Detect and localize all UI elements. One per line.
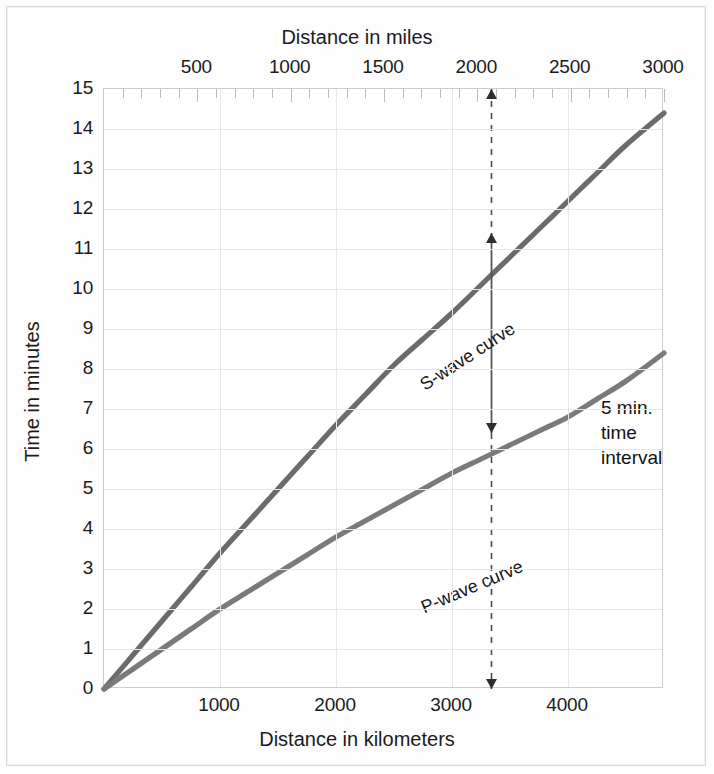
y-axis-tick-label: 5 xyxy=(53,477,93,499)
gridline-horizontal xyxy=(104,249,662,250)
annotation-line-1: 5 min. xyxy=(601,395,662,420)
top-axis-major-tick xyxy=(197,89,198,102)
gridline-horizontal xyxy=(104,329,662,330)
top-axis-minor-tick xyxy=(496,89,497,98)
top-axis-minor-tick xyxy=(235,89,236,98)
top-axis-minor-tick xyxy=(403,89,404,98)
y-axis-tick-label: 14 xyxy=(53,117,93,139)
time-interval-annotation: 5 min. time interval xyxy=(601,395,662,470)
top-axis-minor-tick xyxy=(533,89,534,98)
plot-area: S-wave curve P-wave curve 5 min. time in… xyxy=(103,88,663,688)
annotation-arrow-interval-down xyxy=(486,423,497,433)
gridline-horizontal xyxy=(104,569,662,570)
top-axis-title: Distance in miles xyxy=(0,26,714,49)
gridline-vertical xyxy=(336,89,337,687)
gridline-horizontal xyxy=(104,369,662,370)
top-axis-minor-tick xyxy=(179,89,180,98)
y-axis-tick-label: 11 xyxy=(53,237,93,259)
x-axis-tick-label-km: 4000 xyxy=(546,694,587,716)
x-axis-tick-label-km: 1000 xyxy=(198,694,239,716)
top-axis-minor-tick xyxy=(347,89,348,98)
y-axis-tick-label: 1 xyxy=(53,637,93,659)
chart-page: Distance in miles Distance in kilometers… xyxy=(0,0,714,774)
top-axis-minor-tick xyxy=(328,89,329,98)
x-axis-tick-label-km: 3000 xyxy=(430,694,471,716)
top-axis-minor-tick xyxy=(645,89,646,98)
y-axis-tick-label: 9 xyxy=(53,317,93,339)
gridline-horizontal xyxy=(104,609,662,610)
y-axis-tick-label: 4 xyxy=(53,517,93,539)
x-axis-tick-label-km: 2000 xyxy=(314,694,355,716)
y-axis-tick-label: 6 xyxy=(53,437,93,459)
annotation-line-2: time xyxy=(601,420,662,445)
top-axis-minor-tick xyxy=(272,89,273,98)
top-axis-minor-tick xyxy=(608,89,609,98)
gridline-horizontal xyxy=(104,129,662,130)
top-axis-major-tick xyxy=(477,89,478,102)
x-axis-tick-label-miles: 500 xyxy=(181,56,212,78)
y-axis-tick-label: 8 xyxy=(53,357,93,379)
p-wave-curve xyxy=(104,353,664,689)
y-axis-tick-label: 7 xyxy=(53,397,93,419)
top-axis-minor-tick xyxy=(160,89,161,98)
x-axis-tick-label-miles: 3000 xyxy=(642,56,683,78)
top-axis-tick-labels: 50010001500200025003000 xyxy=(103,56,663,84)
y-axis-tick-label: 2 xyxy=(53,597,93,619)
annotation-arrow-interval-up xyxy=(486,233,497,243)
gridline-horizontal xyxy=(104,649,662,650)
top-axis-minor-tick xyxy=(216,89,217,98)
bottom-axis-title: Distance in kilometers xyxy=(0,728,714,751)
top-axis-minor-tick xyxy=(627,89,628,98)
gridline-horizontal xyxy=(104,449,662,450)
top-axis-major-tick xyxy=(384,89,385,102)
gridline-horizontal xyxy=(104,529,662,530)
x-axis-tick-label-miles: 2000 xyxy=(456,56,497,78)
top-axis-minor-tick xyxy=(309,89,310,98)
top-axis-minor-tick xyxy=(552,89,553,98)
x-axis-tick-label-miles: 1000 xyxy=(269,56,310,78)
top-axis-major-tick xyxy=(664,89,665,102)
gridline-horizontal xyxy=(104,169,662,170)
gridline-vertical xyxy=(568,89,569,687)
s-wave-curve xyxy=(104,113,664,689)
top-axis-minor-tick xyxy=(123,89,124,98)
bottom-axis-tick-labels: 1000200030004000 xyxy=(103,694,663,722)
y-axis-tick-label: 3 xyxy=(53,557,93,579)
y-axis-tick-labels: 0123456789101112131415 xyxy=(48,88,93,688)
top-axis-minor-tick xyxy=(515,89,516,98)
top-axis-major-tick xyxy=(571,89,572,102)
top-axis-minor-tick xyxy=(365,89,366,98)
gridline-horizontal xyxy=(104,289,662,290)
gridline-horizontal xyxy=(104,409,662,410)
top-axis-minor-tick xyxy=(440,89,441,98)
gridline-horizontal xyxy=(104,209,662,210)
top-axis-minor-tick xyxy=(421,89,422,98)
curves-layer xyxy=(104,89,664,689)
top-axis-major-tick xyxy=(291,89,292,102)
gridline-vertical xyxy=(452,89,453,687)
top-axis-minor-tick xyxy=(589,89,590,98)
top-axis-minor-tick xyxy=(459,89,460,98)
x-axis-tick-label-miles: 2500 xyxy=(549,56,590,78)
left-axis-title: Time in minutes xyxy=(21,277,44,507)
y-axis-tick-label: 12 xyxy=(53,197,93,219)
x-axis-tick-label-miles: 1500 xyxy=(362,56,403,78)
y-axis-tick-label: 15 xyxy=(53,77,93,99)
annotation-arrow-bottom xyxy=(486,679,497,689)
gridline-horizontal xyxy=(104,489,662,490)
top-axis-minor-tick xyxy=(253,89,254,98)
y-axis-tick-label: 13 xyxy=(53,157,93,179)
top-axis-minor-tick xyxy=(141,89,142,98)
y-axis-tick-label: 0 xyxy=(53,677,93,699)
y-axis-tick-label: 10 xyxy=(53,277,93,299)
gridline-vertical xyxy=(220,89,221,687)
